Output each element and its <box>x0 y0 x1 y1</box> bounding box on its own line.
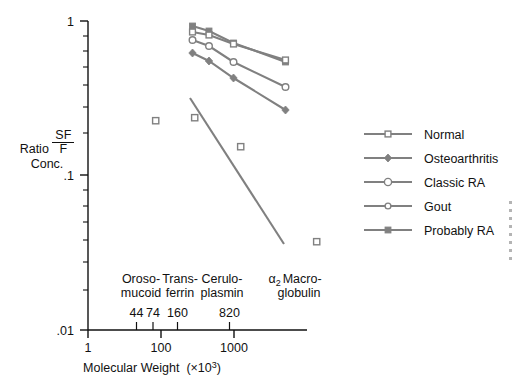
protein-0-line1: Oroso- <box>122 272 160 286</box>
filled-square-icon <box>385 227 391 233</box>
y-axis-label-fraction: SF F <box>52 129 74 156</box>
protein-labels: Oroso- mucoid Trans- ferrin Cerulo- plas… <box>121 272 322 300</box>
mw-value-0: 44 <box>130 306 144 320</box>
x-axis-ticks <box>88 330 234 338</box>
gout-trendline <box>190 98 284 244</box>
y-axis-label-conc: Conc. <box>16 157 78 171</box>
legend-label-gout: Gout <box>424 200 452 214</box>
y-axis-label-denominator: F <box>52 143 74 156</box>
open-circle-small-icon <box>385 203 391 209</box>
chart-legend: Normal Osteoarthritis Classic RA Gout <box>364 128 498 238</box>
x-tick-100: 100 <box>151 341 172 355</box>
chart-canvas: 1 .1 .01 1 100 1000 Molecular Weight(×10… <box>0 0 514 386</box>
chart-figure: 1 .1 .01 1 100 1000 Molecular Weight(×10… <box>0 0 514 386</box>
protein-2-line1: Cerulo- <box>202 272 243 286</box>
legend-label-classic-ra: Classic RA <box>424 176 486 190</box>
x-axis-title-close: ) <box>217 361 221 375</box>
mw-value-3: 820 <box>219 306 240 320</box>
point-marker <box>190 29 196 35</box>
x-axis-title-mult: (×10 <box>186 361 211 375</box>
filled-diamond-icon <box>384 154 391 162</box>
y-axis-label-ratio: Ratio <box>20 142 49 156</box>
open-circle-icon <box>384 178 391 185</box>
y-tick-1: 1 <box>67 15 74 29</box>
protein-2-line2: plasmin <box>200 286 243 300</box>
point-marker <box>190 23 196 29</box>
y-tick-point01: .01 <box>57 324 74 338</box>
point-marker <box>206 43 213 50</box>
point-marker <box>231 41 237 47</box>
point-marker <box>189 49 196 57</box>
x-tick-1: 1 <box>85 341 92 355</box>
point-marker <box>206 32 212 38</box>
point-marker <box>283 57 289 63</box>
legend-item-classic-ra[interactable]: Classic RA <box>364 176 486 190</box>
mw-value-1: 74 <box>146 306 160 320</box>
x-axis-title: Molecular Weight(×103) <box>83 360 221 375</box>
y-axis-label: Ratio SF F Conc. <box>16 128 78 171</box>
legend-label-probably-ra: Probably RA <box>424 224 495 238</box>
mw-value-2: 160 <box>167 306 188 320</box>
legend-label-normal: Normal <box>424 128 464 142</box>
point-marker <box>314 239 320 245</box>
legend-item-normal[interactable]: Normal <box>364 128 464 142</box>
protein-1-line2: ferrin <box>166 286 195 300</box>
legend-item-probably-ra[interactable]: Probably RA <box>364 224 495 238</box>
point-marker <box>192 115 198 121</box>
protein-0-line2: mucoid <box>121 286 161 300</box>
y-axis-label-numerator: SF <box>52 129 74 143</box>
legend-item-gout[interactable]: Gout <box>364 200 452 214</box>
molecular-weight-values: 44 74 160 820 <box>130 306 240 320</box>
series-gout <box>153 98 320 245</box>
open-square-icon <box>385 131 391 137</box>
protein-1-line1: Trans- <box>162 272 198 286</box>
y-axis-ticks <box>80 21 88 330</box>
x-axis-protein-ticks <box>137 322 230 330</box>
point-marker <box>189 37 196 44</box>
page-edge-artifact <box>507 196 514 288</box>
legend-item-osteoarthritis[interactable]: Osteoarthritis <box>364 152 498 166</box>
x-axis-title-text: Molecular Weight <box>83 361 180 375</box>
legend-label-osteoarthritis: Osteoarthritis <box>424 152 498 166</box>
point-marker <box>230 59 237 66</box>
point-marker <box>153 118 159 124</box>
protein-3-line2: globulin <box>277 286 320 300</box>
point-marker <box>238 144 244 150</box>
x-tick-1000: 1000 <box>220 341 248 355</box>
svg-text:Molecular Weight(×103): Molecular Weight(×103) <box>83 360 221 375</box>
point-marker <box>282 84 289 91</box>
